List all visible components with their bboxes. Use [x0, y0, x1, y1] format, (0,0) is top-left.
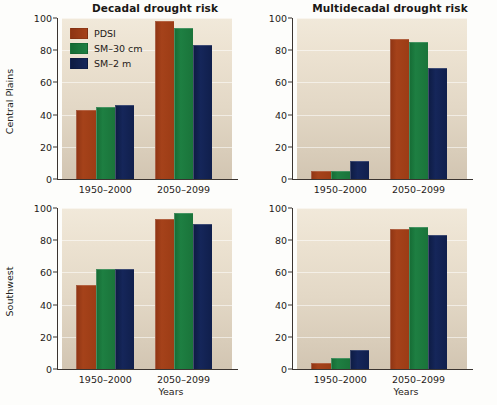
y-axis-tick-label: 60: [261, 267, 287, 278]
bar-group: [155, 18, 213, 179]
y-axis-tick-mark: [53, 50, 57, 51]
chart-panel-southwest-decadal: 0204060801001950–20002050–2099: [24, 208, 238, 370]
y-axis-tick-mark: [288, 208, 292, 209]
xaxis-title-right: Years: [326, 386, 486, 397]
bar-pdsi: [311, 363, 330, 369]
bar-group: [311, 18, 369, 179]
legend-label: PDSI: [94, 28, 116, 39]
bar-pdsi: [390, 39, 409, 179]
bar-sm2: [428, 235, 447, 369]
bar-sm2: [193, 45, 212, 179]
row-label-southwest: Southwest: [4, 242, 15, 342]
bar-sm30: [96, 269, 115, 369]
xaxis-title-left: Years: [91, 386, 251, 397]
legend-swatch-sm30: [70, 43, 88, 54]
y-axis-tick-label: 80: [261, 45, 287, 56]
x-axis-category-label: 1950–2000: [79, 184, 132, 195]
y-axis-line: [57, 208, 58, 370]
y-axis-line: [57, 18, 58, 180]
bar-sm2: [115, 105, 134, 179]
x-axis-line: [57, 179, 238, 180]
y-axis-tick-label: 20: [26, 331, 52, 342]
y-axis-tick-label: 40: [261, 109, 287, 120]
y-axis-tick-mark: [288, 240, 292, 241]
bar-pdsi: [390, 229, 409, 369]
x-axis-line: [292, 369, 473, 370]
y-axis-tick-label: 0: [26, 174, 52, 185]
bar-sm30: [174, 213, 193, 369]
y-axis-tick-label: 100: [26, 203, 52, 214]
column-title-multidecadal: Multidecadal drought risk: [290, 2, 490, 14]
bar-pdsi: [76, 110, 95, 179]
bar-sm30: [331, 171, 350, 179]
bar-sm30: [409, 227, 428, 369]
bar-sm2: [193, 224, 212, 369]
y-axis-tick-label: 80: [26, 45, 52, 56]
bar-group: [390, 208, 448, 369]
x-axis-category-label: 1950–2000: [79, 374, 132, 385]
y-axis-tick-label: 40: [26, 109, 52, 120]
y-axis-tick-label: 40: [26, 299, 52, 310]
chart-panel-southwest-multidecadal: 0204060801001950–20002050–2099: [259, 208, 473, 370]
legend-item[interactable]: PDSI: [70, 28, 143, 39]
y-axis-tick-label: 80: [261, 235, 287, 246]
bar-group: [390, 18, 448, 179]
y-axis-tick-mark: [288, 82, 292, 83]
bar-pdsi: [155, 21, 174, 179]
y-axis-tick-label: 60: [261, 77, 287, 88]
y-axis-tick-label: 100: [26, 13, 52, 24]
y-axis-tick-label: 0: [26, 364, 52, 375]
y-axis-tick-label: 40: [261, 299, 287, 310]
bar-pdsi: [155, 219, 174, 369]
y-axis-tick-mark: [288, 50, 292, 51]
y-axis-tick-mark: [288, 336, 292, 337]
y-axis-tick-mark: [53, 336, 57, 337]
y-axis-tick-label: 0: [261, 174, 287, 185]
y-axis-line: [292, 208, 293, 370]
bar-sm2: [350, 350, 369, 369]
x-axis-category-label: 1950–2000: [314, 374, 367, 385]
y-axis-tick-mark: [53, 369, 57, 370]
y-axis-tick-mark: [288, 18, 292, 19]
bar-sm30: [174, 28, 193, 179]
y-axis-tick-mark: [53, 114, 57, 115]
y-axis-tick-label: 20: [261, 141, 287, 152]
y-axis-tick-mark: [53, 208, 57, 209]
legend-item[interactable]: SM–2 m: [70, 58, 143, 69]
x-axis-category-label: 2050–2099: [157, 184, 210, 195]
bar-sm2: [350, 161, 369, 179]
legend-swatch-pdsi: [70, 28, 88, 39]
y-axis-tick-mark: [288, 179, 292, 180]
legend-swatch-sm2: [70, 58, 88, 69]
y-axis-tick-label: 80: [26, 235, 52, 246]
plot-area: [297, 208, 467, 369]
plot-area: [62, 208, 232, 369]
y-axis-tick-mark: [288, 369, 292, 370]
chart-legend: PDSISM–30 cmSM–2 m: [70, 28, 143, 69]
y-axis-tick-mark: [53, 146, 57, 147]
bar-sm30: [96, 107, 115, 179]
y-axis-tick-mark: [53, 82, 57, 83]
legend-item[interactable]: SM–30 cm: [70, 43, 143, 54]
y-axis-tick-mark: [288, 114, 292, 115]
bar-sm30: [409, 42, 428, 179]
y-axis-tick-label: 0: [261, 364, 287, 375]
bar-sm30: [331, 358, 350, 369]
x-axis-category-label: 1950–2000: [314, 184, 367, 195]
y-axis-tick-label: 20: [26, 141, 52, 152]
y-axis-tick-mark: [288, 304, 292, 305]
x-axis-line: [292, 179, 473, 180]
y-axis-tick-mark: [53, 304, 57, 305]
bar-pdsi: [76, 285, 95, 369]
y-axis-tick-label: 20: [261, 331, 287, 342]
y-axis-line: [292, 18, 293, 180]
bar-group: [311, 208, 369, 369]
row-label-central-plains: Central Plains: [4, 52, 15, 152]
x-axis-line: [57, 369, 238, 370]
x-axis-category-label: 2050–2099: [157, 374, 210, 385]
y-axis-tick-mark: [53, 179, 57, 180]
bar-sm2: [428, 68, 447, 179]
x-axis-category-label: 2050–2099: [392, 374, 445, 385]
column-title-decadal: Decadal drought risk: [55, 2, 255, 14]
y-axis-tick-label: 60: [26, 77, 52, 88]
